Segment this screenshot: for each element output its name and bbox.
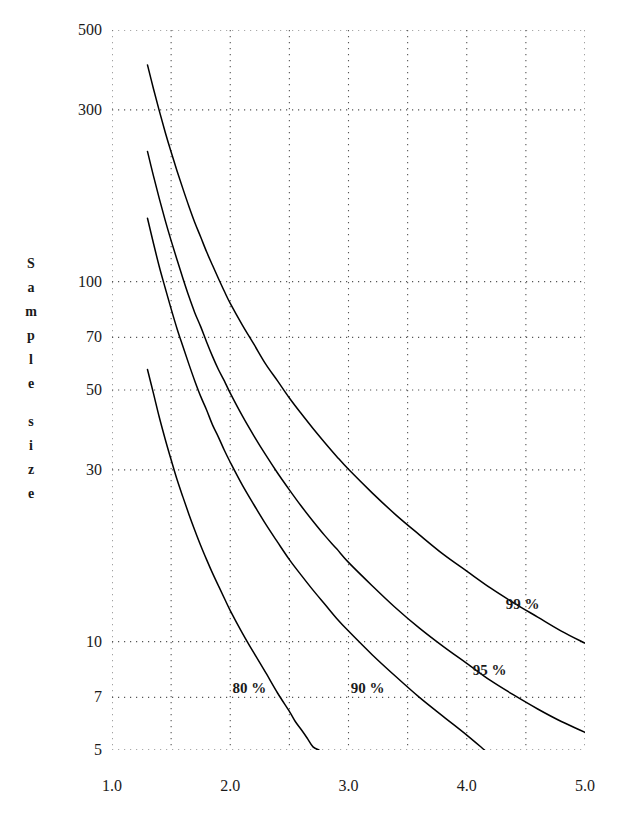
y-axis-title-char: a: [18, 276, 44, 300]
y-axis-title-char: i: [18, 434, 44, 458]
y-axis-title-char: e: [18, 482, 44, 506]
curve-99-percent: [147, 65, 585, 643]
y-tick-label: 7: [46, 689, 102, 705]
curve-label-80-percent: 80 %: [233, 681, 267, 696]
y-tick-label: 500: [46, 22, 102, 38]
curve-90-percent: [147, 218, 484, 750]
curve-95-percent: [147, 151, 585, 732]
y-axis-title-gap: [18, 396, 44, 410]
y-axis-title-char: z: [18, 458, 44, 482]
x-tick-label: 4.0: [437, 778, 497, 794]
x-tick-label: 2.0: [200, 778, 260, 794]
y-axis-title-char: S: [18, 252, 44, 276]
y-tick-label: 10: [46, 634, 102, 650]
curve-label-90-percent: 90 %: [351, 681, 385, 696]
y-tick-label: 5: [46, 742, 102, 758]
x-tick-label: 1.0: [82, 778, 142, 794]
plot-area: 80 %90 %95 %99 %: [112, 30, 585, 750]
x-tick-label: 5.0: [555, 778, 615, 794]
y-tick-label: 100: [46, 274, 102, 290]
y-tick-label: 300: [46, 102, 102, 118]
curve-label-99-percent: 99 %: [506, 597, 540, 612]
curve-label-95-percent: 95 %: [473, 663, 507, 678]
x-tick-label: 3.0: [319, 778, 379, 794]
y-axis-title-char: l: [18, 348, 44, 372]
plot-svg: [112, 30, 585, 750]
gridlines: [112, 30, 585, 750]
x-axis-tick-labels: 1.02.03.04.05.0: [0, 778, 620, 802]
y-axis-title-char: e: [18, 372, 44, 396]
data-curves: [147, 65, 585, 750]
y-axis-tick-labels: 5003001007050301075: [46, 0, 102, 816]
y-axis-title-char: p: [18, 324, 44, 348]
y-tick-label: 70: [46, 329, 102, 345]
y-axis-title-char: s: [18, 410, 44, 434]
y-tick-label: 30: [46, 462, 102, 478]
y-axis-title: Samplesize: [18, 252, 44, 506]
y-tick-label: 50: [46, 382, 102, 398]
y-axis-title-char: m: [18, 300, 44, 324]
chart-figure: Samplesize 5003001007050301075 80 %90 %9…: [0, 0, 620, 816]
